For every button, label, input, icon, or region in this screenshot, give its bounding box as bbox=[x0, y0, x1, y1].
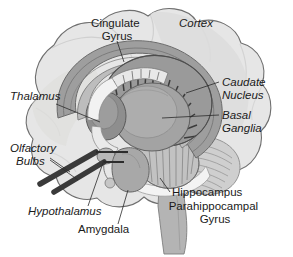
label-hypothalamus: Hypothalamus bbox=[28, 205, 102, 217]
brain-diagram-svg: Cingulate Gyrus Cortex Caudate Nucleus B… bbox=[0, 0, 293, 257]
label-cortex: Cortex bbox=[179, 17, 214, 29]
amygdala bbox=[112, 148, 149, 192]
label-thalamus: Thalamus bbox=[10, 90, 61, 102]
label-amygdala: Amygdala bbox=[78, 223, 130, 235]
brain-diagram-figure: Cingulate Gyrus Cortex Caudate Nucleus B… bbox=[0, 0, 293, 257]
label-caudate-nucleus: Caudate Nucleus bbox=[222, 76, 269, 101]
label-hippocampus: Hippocampus bbox=[172, 186, 243, 198]
